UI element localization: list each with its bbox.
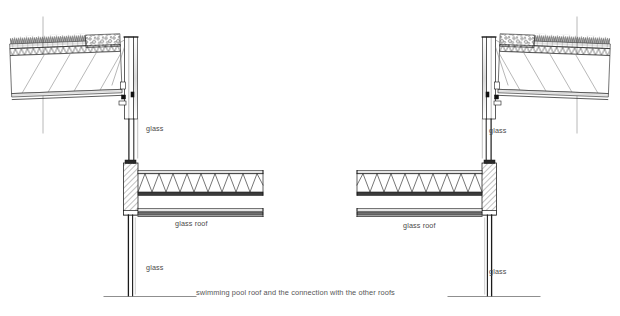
left-upper-glass-wall	[129, 119, 138, 163]
section-drawing-canvas	[0, 0, 620, 316]
right-hatched-pier	[482, 160, 497, 215]
right-horizontal-glass-roof	[357, 171, 482, 217]
label-glass-left-upper: glass	[146, 125, 164, 132]
left-lower-glass-wall	[128, 215, 135, 296]
right-lower-glass-wall	[485, 215, 492, 296]
label-glass-roof-right: glass roof	[403, 222, 436, 229]
label-glass-left-lower: glass	[146, 264, 164, 271]
drawing-caption: swimming pool roof and the connection wi…	[196, 289, 395, 296]
label-glass-right-lower: glass	[489, 268, 507, 275]
architectural-section-drawing: glass glass roof glass glass glass roof …	[0, 0, 620, 316]
right-sloped-roof-assembly	[498, 17, 610, 133]
left-horizontal-glass-roof	[138, 171, 263, 217]
left-hatched-pier	[124, 160, 139, 215]
label-glass-right-upper: glass	[489, 127, 507, 134]
label-glass-roof-left: glass roof	[175, 220, 208, 227]
left-sloped-roof-assembly	[10, 17, 122, 133]
left-structural-deck	[11, 51, 122, 93]
